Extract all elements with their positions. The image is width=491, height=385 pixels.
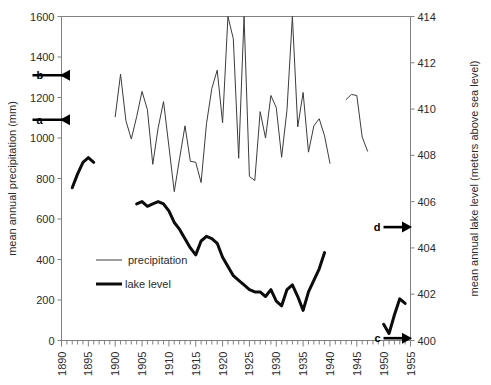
annotation-label-a: a (37, 114, 44, 126)
x-axis-tick-label: 1900 (109, 352, 121, 376)
x-axis-tick-label: 1950 (378, 352, 390, 376)
x-axis-tick-label: 1910 (163, 352, 175, 376)
x-axis-tick-label: 1945 (351, 352, 363, 376)
y-axis-right-tick-label: 400 (418, 335, 436, 347)
y-axis-right-tick-label: 412 (418, 57, 436, 69)
y-axis-left-tick-label: 0 (48, 335, 54, 347)
chart-canvas: mean annual precipitation (mm) mean annu… (0, 0, 491, 385)
legend-label-precipitation: precipitation (128, 254, 187, 266)
y-axis-left-title: mean annual precipitation (mm) (6, 101, 18, 256)
y-axis-right-tick-label: 414 (418, 11, 436, 23)
annotation-label-c: c (374, 332, 380, 344)
y-axis-right-title-text: mean annual lake level (meters above sea… (468, 60, 480, 296)
x-axis-tick-label: 1895 (82, 352, 94, 376)
y-axis-left-title-text: mean annual precipitation (mm) (6, 101, 18, 256)
x-axis-tick-label: 1920 (217, 352, 229, 376)
y-axis-left-tick-label: 200 (36, 294, 54, 306)
x-axis-tick-label: 1905 (136, 352, 148, 376)
x-axis-tick-label: 1940 (324, 352, 336, 376)
x-axis-tick-label: 1930 (270, 352, 282, 376)
x-axis-tick-label: 1925 (243, 352, 255, 376)
y-axis-right-tick-label: 404 (418, 242, 436, 254)
y-axis-left-tick-label: 1000 (30, 132, 54, 144)
x-axis-tick-label: 1935 (297, 352, 309, 376)
legend-label-lake-level: lake level (125, 278, 171, 290)
y-axis-right-tick-label: 408 (418, 149, 436, 161)
annotation-label-b: b (37, 69, 44, 81)
x-axis-tick-label: 1955 (405, 352, 417, 376)
y-axis-left-tick-label: 1600 (30, 11, 54, 23)
x-axis-tick-label: 1915 (190, 352, 202, 376)
y-axis-right-tick-label: 402 (418, 288, 436, 300)
y-axis-left-tick-label: 1200 (30, 92, 54, 104)
annotation-label-d: d (374, 221, 381, 233)
y-axis-right-title: mean annual lake level (meters above sea… (468, 60, 480, 296)
y-axis-left-tick-label: 1400 (30, 51, 54, 63)
y-axis-left-tick-label: 600 (36, 213, 54, 225)
x-axis-tick-label: 1890 (56, 352, 68, 376)
y-axis-right-tick-label: 406 (418, 196, 436, 208)
chart-figure: mean annual precipitation (mm) mean annu… (0, 0, 491, 385)
y-axis-left-tick-label: 400 (36, 254, 54, 266)
y-axis-right-tick-label: 410 (418, 103, 436, 115)
y-axis-left-tick-label: 800 (36, 173, 54, 185)
